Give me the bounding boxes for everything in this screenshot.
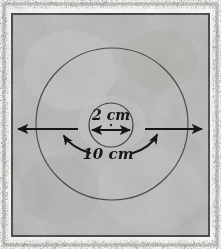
geometry-figure: 2 cm 10 cm [0, 0, 221, 249]
figure-canvas: 2 cm 10 cm [0, 0, 221, 249]
scan-grain-overlay [13, 15, 208, 235]
